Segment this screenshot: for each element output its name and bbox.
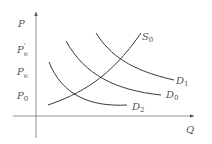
x-axis-label: Q — [186, 124, 194, 135]
supply-label-s0: S0 — [142, 31, 153, 44]
supply-curve-s0 — [48, 33, 141, 105]
demand-curve-d0 — [66, 41, 161, 95]
demand-label-d2: D2 — [131, 101, 145, 114]
y-axis-label: P — [17, 18, 25, 29]
demand-curve-d1 — [96, 33, 174, 80]
demand-label-d1: D1 — [175, 75, 189, 88]
supply-demand-diagram: P Q P'e Pe P0 S0 D1 D0 D2 — [0, 0, 212, 144]
price-label-pe-prime: P'e — [16, 42, 28, 58]
price-label-pe: Pe — [16, 66, 28, 80]
demand-label-d0: D0 — [165, 89, 179, 102]
price-label-p0: P0 — [16, 90, 28, 103]
